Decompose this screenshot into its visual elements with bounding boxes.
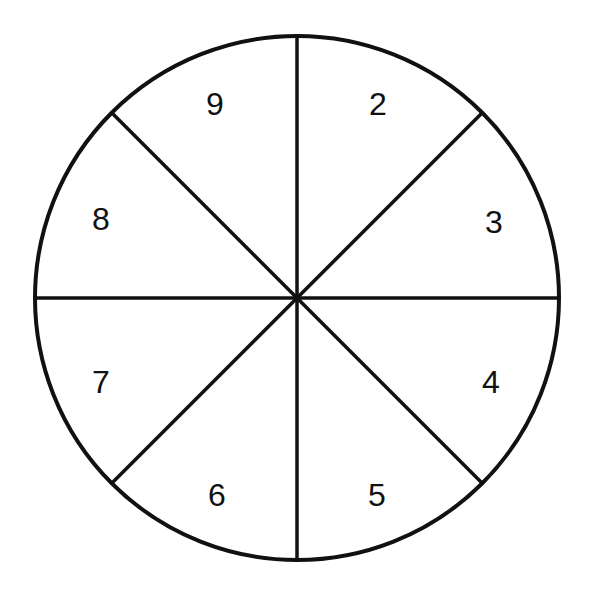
section-label-7: 7 bbox=[92, 364, 110, 400]
section-label-3: 3 bbox=[485, 204, 503, 240]
section-label-2: 2 bbox=[369, 86, 387, 122]
section-label-4: 4 bbox=[482, 364, 500, 400]
section-label-6: 6 bbox=[208, 477, 226, 513]
section-label-9: 9 bbox=[206, 86, 224, 122]
section-label-8: 8 bbox=[92, 201, 110, 237]
spinner-diagram: 2 3 4 5 6 7 8 9 bbox=[0, 0, 597, 600]
section-label-5: 5 bbox=[368, 477, 386, 513]
